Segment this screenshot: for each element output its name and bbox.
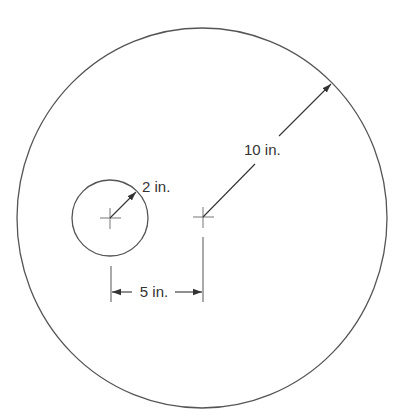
inner-center-mark — [100, 208, 121, 229]
inner-radius-label: 2 in. — [142, 178, 170, 195]
diagram-canvas: 2 in. 10 in. 5 in. — [0, 0, 396, 419]
outer-radius-line-lower — [203, 164, 255, 217]
inner-radius-arrow — [110, 192, 136, 218]
outer-center-mark — [193, 207, 214, 228]
outer-radius-label: 10 in. — [244, 141, 281, 158]
center-distance-label: 5 in. — [140, 283, 168, 300]
outer-radius-arrow — [279, 84, 331, 136]
